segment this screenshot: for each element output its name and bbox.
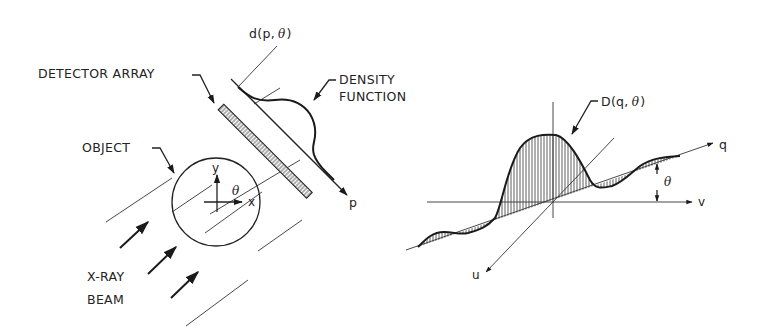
x-axis-label: x	[248, 195, 255, 209]
detector-array-leader	[192, 75, 214, 103]
ct-diagram: d(p,θ) DENSITY FUNCTION DETECTOR ARRAY O…	[0, 0, 761, 334]
x-ray-beam-label-line2: BEAM	[87, 292, 124, 307]
q-axis-label: q	[719, 137, 727, 152]
transform-hatch-fill	[418, 135, 680, 247]
density-function-leader	[314, 80, 336, 100]
angle-theta-label-right: θ	[664, 175, 672, 189]
projection-label: d(p,θ)	[249, 26, 292, 41]
density-function-label-line2: FUNCTION	[339, 89, 406, 104]
p-axis-label: p	[349, 195, 357, 210]
object-leader	[152, 148, 174, 173]
transform-label: D(q,θ)	[601, 94, 645, 109]
u-axis-label: u	[472, 268, 480, 282]
right-panel: v u q D(q,θ) θ	[406, 94, 727, 282]
projection-leader	[238, 46, 277, 87]
y-axis-label: y	[212, 161, 219, 175]
object-label: OBJECT	[82, 140, 130, 155]
left-panel: d(p,θ) DENSITY FUNCTION DETECTOR ARRAY O…	[38, 26, 406, 326]
transform-leader	[572, 101, 598, 134]
detector-array-label: DETECTOR ARRAY	[38, 66, 155, 81]
v-axis-label: v	[698, 195, 705, 209]
angle-theta-label: θ	[232, 184, 240, 198]
density-function-label-line1: DENSITY	[339, 72, 395, 87]
x-ray-beam-label-line1: X-RAY	[87, 269, 124, 284]
x-ray-beam-arrows	[120, 222, 198, 298]
beam-boundary-lines	[106, 88, 302, 326]
